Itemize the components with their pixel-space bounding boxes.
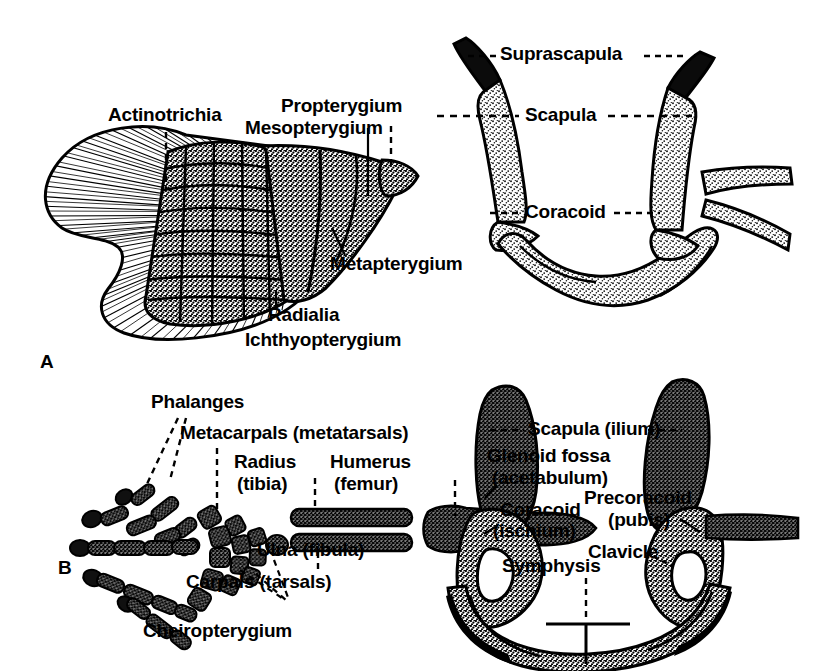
label-humerus: Humerus <box>330 452 411 471</box>
label-metacarpals: Metacarpals (metatarsals) <box>180 423 408 442</box>
label-propterygium: Propterygium <box>281 96 402 115</box>
label-ulna: Ulna (fibula) <box>257 540 364 559</box>
label-radius-sub: (tibia) <box>237 474 287 493</box>
label-coracoid-ischium-sub: (ischium) <box>493 521 576 540</box>
label-metapterygium: Metapterygium <box>330 254 463 273</box>
label-symphysis: Symphysis <box>502 556 601 575</box>
label-humerus-sub: (femur) <box>334 474 398 493</box>
label-ichthyopterygium: Ichthyopterygium <box>245 330 401 349</box>
panel-letter-a: A <box>40 352 54 371</box>
label-glenoid-fossa: Glenoid fossa <box>487 446 610 465</box>
label-actinotrichia: Actinotrichia <box>108 105 222 124</box>
label-carpals: Carpals (tarsals) <box>186 572 332 591</box>
panel-a-illustration <box>35 38 792 344</box>
anatomical-illustration <box>0 0 813 671</box>
figure-root: Actinotrichia Propterygium Mesopterygium… <box>0 0 813 671</box>
label-precoracoid-pubis-sub: (pubis) <box>608 510 670 529</box>
panel-letter-b: B <box>58 558 72 577</box>
label-phalanges: Phalanges <box>151 392 244 411</box>
label-cheiropterygium: Cheiropterygium <box>143 621 292 640</box>
propterygium <box>379 160 418 196</box>
posterior-process-right <box>706 515 798 540</box>
label-suprascapula: Suprascapula <box>500 44 622 63</box>
label-radius: Radius <box>234 452 296 471</box>
label-scapula: Scapula <box>525 105 596 124</box>
label-coracoid-ischium: Coracoid <box>500 500 581 519</box>
pterygium-plate <box>262 146 399 302</box>
digit-3 <box>70 540 198 556</box>
label-mesopterygium: Mesopterygium <box>245 118 383 137</box>
radius-bone <box>291 509 412 526</box>
label-precoracoid-pubis: Precoracoid <box>584 488 692 507</box>
label-coracoid: Coracoid <box>525 202 606 221</box>
label-glenoid-fossa-sub: (acetabulum) <box>492 468 608 487</box>
label-radialia: Radialia <box>268 305 339 324</box>
leader-phalanges-1 <box>146 418 178 486</box>
label-scapula-ilium: Scapula (ilium) <box>528 419 660 438</box>
